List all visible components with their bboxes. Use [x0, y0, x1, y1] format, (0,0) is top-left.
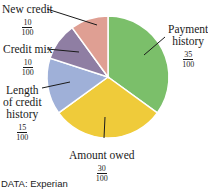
fraction: 10 100 — [21, 18, 33, 37]
label-new-credit: New credit 10 100 — [2, 3, 53, 37]
fraction: 30 100 — [96, 164, 108, 183]
fraction: 15 100 — [16, 123, 28, 142]
label-length-of-credit-history: Length of credit history 15 100 — [3, 84, 42, 142]
label-text: New credit — [2, 3, 53, 15]
fraction: 35 100 — [182, 50, 194, 69]
data-source: DATA: Experian — [1, 178, 68, 189]
label-payment-history: Payment history 35 100 — [168, 23, 208, 69]
label-amount-owed: Amount owed 30 100 — [69, 149, 134, 183]
fraction: 10 100 — [22, 58, 34, 77]
leader-new-credit — [47, 9, 97, 25]
label-credit-mix: Credit mix 10 100 — [3, 43, 53, 77]
label-text: Credit mix — [3, 43, 53, 55]
pie-slices — [47, 16, 169, 138]
